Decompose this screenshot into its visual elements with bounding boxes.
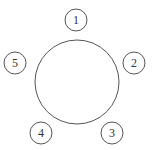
- node-4: 4: [30, 122, 52, 144]
- node-5: 5: [4, 52, 26, 74]
- node-2: 2: [123, 52, 145, 74]
- center-circle: [35, 40, 119, 124]
- node-1: 1: [65, 9, 87, 31]
- node-label: 3: [109, 126, 115, 140]
- node-label: 5: [12, 56, 18, 70]
- node-label: 2: [131, 56, 137, 70]
- node-label: 4: [38, 126, 44, 140]
- node-3: 3: [101, 122, 123, 144]
- node-label: 1: [73, 13, 79, 27]
- round-table-diagram: 1 2 3 4 5: [0, 0, 152, 150]
